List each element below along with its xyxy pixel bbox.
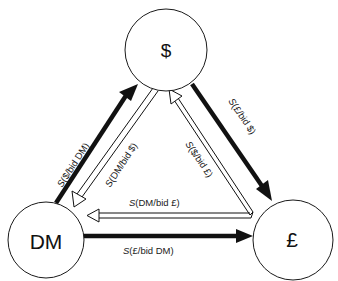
hollow-arrowhead-icon [87, 209, 99, 222]
node-dm-label: DM [30, 230, 63, 253]
node-gbp-label: £ [286, 228, 298, 251]
label-dm-per-bid-gbp: S(DM/bid £) [129, 197, 180, 208]
label-usd-per-bid-gbp: S($/bid £) [183, 139, 215, 179]
node-usd: $ [125, 9, 207, 91]
node-dm: DM [8, 202, 84, 278]
hollow-arrowhead-icon [72, 191, 86, 207]
arrow-dm-to-usd [56, 84, 138, 203]
arrow-dm-to-gbp [84, 229, 253, 243]
label-gbp-per-bid-usd: S(£/bid $) [226, 96, 258, 136]
label-dm-per-bid-usd: S(DM/bid $) [102, 141, 139, 190]
node-usd-label: $ [161, 40, 172, 61]
arrowhead-icon [236, 229, 253, 243]
currency-triangle-diagram: $ DM £ S($/bid DM) S(DM/bid $) S(£/bid $… [0, 0, 338, 281]
node-gbp: £ [253, 200, 333, 280]
label-gbp-per-bid-dm: S(£/bid DM) [123, 245, 174, 256]
arrow-gbp-to-dm [87, 209, 253, 222]
